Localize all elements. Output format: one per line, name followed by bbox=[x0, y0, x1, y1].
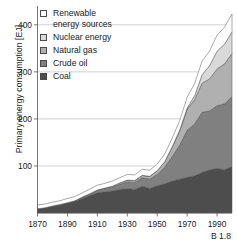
x-tick-label: 1950 bbox=[148, 219, 167, 229]
x-tick-label: 1990 bbox=[208, 219, 227, 229]
x-tick-label: 1890 bbox=[58, 219, 77, 229]
legend-label-nuclear: Nuclear energy bbox=[53, 32, 111, 43]
legend-swatch-renewable bbox=[40, 10, 47, 17]
legend-swatch-nuclear bbox=[40, 34, 47, 41]
legend-swatch-coal bbox=[40, 73, 47, 80]
legend-swatch-oil bbox=[40, 60, 47, 67]
y-tick-label: 200 bbox=[18, 114, 32, 124]
primary-energy-consumption-chart: Primary energy consumption [EJ] 10020030… bbox=[0, 0, 237, 243]
legend-label-renewable: Renewable energy sources bbox=[53, 8, 112, 29]
x-tick-label: 1930 bbox=[118, 219, 137, 229]
legend-item-gas: Natural gas bbox=[40, 45, 112, 56]
legend-label-coal: Coal bbox=[53, 71, 71, 82]
legend-label-oil: Crude oil bbox=[53, 58, 87, 69]
y-tick-label: 300 bbox=[18, 67, 32, 77]
legend-swatch-gas bbox=[40, 47, 47, 54]
y-tick-label: 100 bbox=[18, 161, 32, 171]
legend-item-oil: Crude oil bbox=[40, 58, 112, 69]
legend: Renewable energy sourcesNuclear energyNa… bbox=[40, 8, 112, 84]
legend-item-renewable: Renewable energy sources bbox=[40, 8, 112, 29]
legend-item-nuclear: Nuclear energy bbox=[40, 32, 112, 43]
y-tick-label: 400 bbox=[18, 20, 32, 30]
plot-canvas: 1002003004001870189019101930195019701990 bbox=[0, 0, 237, 243]
x-tick-label: 1870 bbox=[28, 219, 47, 229]
legend-label-gas: Natural gas bbox=[53, 45, 97, 56]
legend-item-coal: Coal bbox=[40, 71, 112, 82]
x-tick-label: 1970 bbox=[178, 219, 197, 229]
figure-caption: B 1.8 bbox=[211, 231, 231, 241]
x-tick-label: 1910 bbox=[88, 219, 107, 229]
